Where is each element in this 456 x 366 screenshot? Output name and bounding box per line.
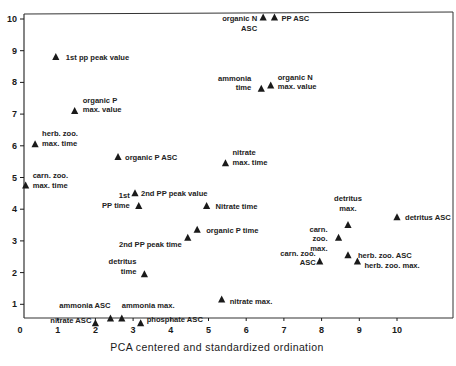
data-point: organic Pmax. value bbox=[71, 96, 121, 115]
y-tick-label: 9 bbox=[12, 46, 17, 56]
triangle-marker-icon bbox=[316, 258, 323, 265]
triangle-marker-icon bbox=[22, 181, 29, 188]
data-point: organic P ASC bbox=[114, 153, 177, 162]
point-label: ammonia max. bbox=[122, 301, 175, 310]
y-tick-label: 3 bbox=[12, 236, 17, 246]
point-label: 1st pp peak value bbox=[66, 53, 129, 62]
triangle-marker-icon bbox=[114, 153, 121, 160]
point-label: herb. zoo. ASC bbox=[358, 251, 412, 260]
triangle-marker-icon bbox=[222, 159, 229, 166]
triangle-marker-icon bbox=[258, 85, 265, 92]
point-label: herb. zoo. max. bbox=[364, 261, 419, 270]
data-point: detritustime bbox=[109, 257, 148, 277]
point-label: ammonia ASC bbox=[59, 301, 111, 310]
data-point: organic Nmax. value bbox=[267, 73, 316, 92]
x-tick-label: 4 bbox=[168, 325, 173, 335]
point-label: detritustime bbox=[109, 257, 137, 276]
triangle-marker-icon bbox=[194, 226, 201, 233]
data-point: organic NASC bbox=[222, 13, 267, 33]
point-label: organic P ASC bbox=[125, 153, 178, 162]
data-point: herb. zoo. ASC bbox=[344, 251, 412, 260]
data-point: carn. zoo.max. time bbox=[22, 171, 68, 190]
point-label: 2nd PP peak time bbox=[119, 240, 182, 249]
data-point: 2nd PP peak time bbox=[119, 234, 191, 249]
x-tick-label: 2 bbox=[93, 325, 98, 335]
data-point: PP ASC bbox=[271, 13, 310, 23]
point-label: organic P time bbox=[206, 226, 258, 235]
triangle-marker-icon bbox=[135, 202, 142, 209]
x-tick-label: 8 bbox=[319, 325, 324, 335]
triangle-marker-icon bbox=[335, 234, 342, 241]
point-label: 1stPP time bbox=[102, 191, 130, 210]
y-tick-label: 7 bbox=[12, 109, 17, 119]
triangle-marker-icon bbox=[344, 221, 351, 228]
triangle-marker-icon bbox=[31, 140, 38, 147]
triangle-marker-icon bbox=[271, 13, 278, 20]
point-label: carn. zoo.max. time bbox=[33, 171, 68, 190]
point-label: detritusmax. bbox=[334, 194, 362, 213]
point-label: nitratemax. time bbox=[232, 148, 267, 167]
data-point: 2nd PP peak value bbox=[131, 189, 207, 198]
pca-scatter-chart: 012345678910 12345678910 organic NASCPP … bbox=[0, 0, 456, 366]
point-label: organic NASC bbox=[222, 14, 258, 33]
data-point: herb. zoo.max. time bbox=[31, 129, 77, 148]
point-label: ammoniatime bbox=[218, 74, 252, 93]
x-tick-label: 5 bbox=[206, 325, 211, 335]
point-label: PP ASC bbox=[281, 14, 309, 23]
point-label: phosphate ASC bbox=[147, 315, 204, 324]
triangle-marker-icon bbox=[203, 202, 210, 209]
x-tick-label: 9 bbox=[357, 325, 362, 335]
y-tick-label: 5 bbox=[12, 173, 17, 183]
y-tick-label: 6 bbox=[12, 141, 17, 151]
data-points: organic NASCPP ASC1st pp peak valueammon… bbox=[22, 13, 451, 326]
point-label: detritus ASC bbox=[405, 213, 451, 222]
y-tick-label: 2 bbox=[12, 268, 17, 278]
triangle-marker-icon bbox=[184, 234, 191, 241]
x-tick-label: 3 bbox=[131, 325, 136, 335]
point-label: carn. zoo.ASC bbox=[280, 249, 316, 268]
y-axis-ticks: 12345678910 bbox=[7, 14, 24, 309]
x-axis-label: PCA centered and standardized ordination bbox=[110, 341, 323, 353]
data-point: 1st pp peak value bbox=[52, 53, 129, 62]
data-point: nitrate max. bbox=[218, 296, 272, 306]
point-label: herb. zoo.max. time bbox=[42, 129, 78, 148]
point-label: nitrate ASC bbox=[50, 316, 92, 325]
data-point: nitratemax. time bbox=[222, 148, 268, 167]
triangle-marker-icon bbox=[71, 107, 78, 114]
triangle-marker-icon bbox=[344, 251, 351, 258]
y-tick-label: 10 bbox=[7, 14, 17, 24]
y-tick-label: 8 bbox=[12, 77, 17, 87]
triangle-marker-icon bbox=[137, 319, 144, 326]
point-label: nitrate max. bbox=[230, 297, 273, 306]
point-label: 2nd PP peak value bbox=[141, 189, 208, 198]
triangle-marker-icon bbox=[393, 213, 400, 220]
triangle-marker-icon bbox=[92, 319, 99, 326]
x-tick-label: 7 bbox=[281, 325, 286, 335]
point-label: Nitrate time bbox=[216, 202, 258, 211]
triangle-marker-icon bbox=[52, 53, 59, 60]
x-tick-label: 10 bbox=[392, 325, 402, 335]
data-point: ammoniatime bbox=[218, 74, 265, 93]
triangle-marker-icon bbox=[260, 13, 267, 20]
triangle-marker-icon bbox=[131, 189, 138, 196]
data-point: Nitrate time bbox=[203, 202, 257, 211]
point-label: organic Nmax. value bbox=[278, 73, 317, 92]
triangle-marker-icon bbox=[218, 296, 225, 303]
point-label: organic Pmax. value bbox=[83, 96, 122, 115]
y-tick-label: 1 bbox=[12, 299, 17, 309]
data-point: detritus ASC bbox=[393, 213, 451, 222]
data-point: organic P time bbox=[194, 226, 259, 235]
triangle-marker-icon bbox=[267, 82, 274, 89]
x-tick-label: 6 bbox=[244, 325, 249, 335]
x-tick-label: 0 bbox=[17, 325, 22, 335]
y-tick-label: 4 bbox=[12, 204, 17, 214]
triangle-marker-icon bbox=[141, 270, 148, 277]
x-tick-label: 1 bbox=[55, 325, 60, 335]
data-point: detritusmax. bbox=[334, 194, 362, 228]
